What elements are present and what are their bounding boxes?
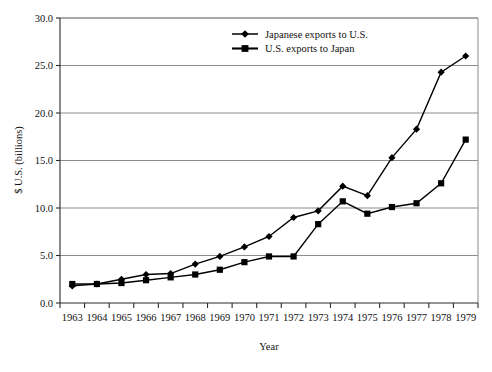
- data-point-marker: [168, 274, 174, 280]
- data-point-marker: [340, 198, 346, 204]
- data-point-marker: [118, 280, 124, 286]
- y-tick-label: 0.0: [40, 298, 53, 309]
- legend-label: U.S. exports to Japan: [265, 43, 355, 54]
- data-point-marker: [266, 253, 272, 259]
- x-tick-label: 1965: [111, 312, 132, 323]
- data-point-marker: [413, 200, 419, 206]
- x-axis-ticks: 1963196419651966196719681969197019711972…: [60, 303, 478, 323]
- y-axis-ticks: 0.05.010.015.020.025.030.0: [35, 13, 60, 309]
- x-tick-label: 1967: [160, 312, 181, 323]
- x-axis-title: Year: [259, 341, 279, 352]
- x-tick-label: 1972: [283, 312, 304, 323]
- x-tick-label: 1978: [431, 312, 452, 323]
- x-tick-label: 1963: [62, 312, 83, 323]
- legend-marker-square: [242, 45, 249, 52]
- x-tick-label: 1976: [381, 312, 402, 323]
- data-point-marker: [389, 204, 395, 210]
- y-tick-label: 15.0: [35, 155, 53, 166]
- data-point-marker: [315, 221, 321, 227]
- x-tick-label: 1969: [209, 312, 230, 323]
- x-tick-label: 1974: [332, 312, 354, 323]
- x-tick-label: 1977: [406, 312, 427, 323]
- data-point-marker: [290, 253, 296, 259]
- x-tick-label: 1970: [234, 312, 255, 323]
- legend-label: Japanese exports to U.S.: [265, 29, 368, 40]
- x-tick-label: 1968: [185, 312, 206, 323]
- data-point-marker: [94, 281, 100, 287]
- y-axis-title: $ U.S. (billions): [13, 126, 25, 194]
- data-point-marker: [217, 267, 223, 273]
- data-point-marker: [463, 137, 469, 143]
- data-point-marker: [438, 180, 444, 186]
- data-point-marker: [192, 271, 198, 277]
- data-point-marker: [69, 281, 75, 287]
- x-tick-label: 1966: [136, 312, 157, 323]
- figure-container: 0.05.010.015.020.025.030.0 1963196419651…: [0, 0, 492, 372]
- x-tick-label: 1973: [308, 312, 329, 323]
- x-tick-label: 1971: [259, 312, 280, 323]
- data-point-marker: [143, 277, 149, 283]
- y-tick-label: 10.0: [35, 203, 53, 214]
- x-tick-label: 1979: [455, 312, 476, 323]
- data-point-marker: [241, 259, 247, 265]
- x-tick-label: 1964: [86, 312, 108, 323]
- y-tick-label: 20.0: [35, 108, 53, 119]
- x-tick-label: 1975: [357, 312, 378, 323]
- y-tick-label: 25.0: [35, 60, 53, 71]
- data-point-marker: [364, 211, 370, 217]
- y-tick-label: 5.0: [40, 250, 53, 261]
- line-chart: 0.05.010.015.020.025.030.0 1963196419651…: [0, 0, 492, 372]
- y-tick-label: 30.0: [35, 13, 53, 24]
